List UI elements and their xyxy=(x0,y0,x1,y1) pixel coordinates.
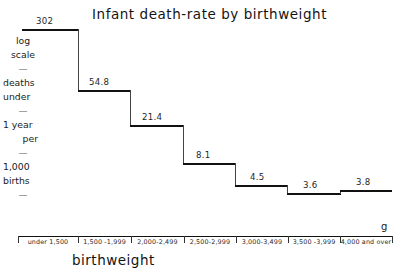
step-value-label: 302 xyxy=(36,16,53,26)
x-axis-unit-label: g xyxy=(381,221,387,232)
step-riser xyxy=(235,163,236,186)
step-value-label: 21.4 xyxy=(142,112,162,122)
step-segment xyxy=(340,190,392,192)
x-axis-title: birthweight xyxy=(72,252,155,268)
step-riser xyxy=(183,125,184,164)
step-segment xyxy=(78,90,131,92)
x-axis-category-label: 1,500 -1,999 xyxy=(78,238,131,246)
step-value-label: 54.8 xyxy=(89,77,109,87)
step-segment xyxy=(130,125,184,127)
step-value-label: 8.1 xyxy=(196,150,211,160)
x-axis-category-label: under 1,500 xyxy=(18,238,78,246)
step-segment xyxy=(287,193,341,195)
x-axis-category-label: 3,500 -3,999 xyxy=(288,238,340,246)
step-riser xyxy=(78,29,79,91)
chart-container: Infant death-rate by birthweight log sca… xyxy=(0,0,403,278)
step-segment xyxy=(22,29,79,31)
step-value-label: 4.5 xyxy=(250,172,265,182)
step-value-label: 3.6 xyxy=(303,180,318,190)
x-axis-category-label: 2,000-2,499 xyxy=(131,238,184,246)
step-segment xyxy=(183,163,236,165)
step-riser xyxy=(130,90,131,126)
x-axis-tick xyxy=(392,236,393,243)
step-segment xyxy=(235,185,288,187)
step-value-label: 3.8 xyxy=(356,177,371,187)
x-axis-category-label: 3,000-3,499 xyxy=(236,238,288,246)
x-axis-category-label: 2,500-2,999 xyxy=(184,238,236,246)
x-axis-category-label: 4,000 and over xyxy=(340,238,392,246)
